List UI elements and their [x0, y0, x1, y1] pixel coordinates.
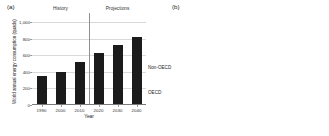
panel-a-history-projection-divider — [89, 13, 90, 105]
panel-a-x-tick-mark — [42, 105, 43, 107]
panel-a-x-tick-label: 2020 — [94, 108, 104, 113]
panel-a-x-axis-title: Year — [84, 114, 94, 119]
bar-2020 — [94, 53, 104, 105]
panel-a-x-tick-mark — [99, 105, 100, 107]
panel-a-x-tick-mark — [61, 105, 62, 107]
panel-a-y-tick-label: 600 — [23, 53, 30, 58]
panel-a-history-label: History — [53, 6, 68, 11]
panel-a-x-tick-mark — [118, 105, 119, 107]
panel-b: (b) Annual energy consumption (quads) 01… — [165, 0, 329, 136]
panel-a-projections-label: Projections — [106, 6, 130, 11]
panel-a-y-tick-mark — [30, 39, 32, 40]
panel-a-x-tick-label: 1990 — [37, 108, 47, 113]
panel-a-y-tick-mark — [30, 22, 32, 23]
panel-a-x-tick-mark — [137, 105, 138, 107]
panel-a-y-tick-label: 200 — [23, 86, 30, 91]
series-label-oecd: OECD — [148, 90, 161, 95]
panel-b-label: (b) — [172, 3, 180, 10]
bar-2040 — [132, 37, 142, 105]
panel-a: (a) World annual energy consumption (qua… — [0, 0, 164, 136]
panel-a-x-tick-label: 2010 — [75, 108, 85, 113]
figure-container: (a) World annual energy consumption (qua… — [0, 0, 329, 136]
panel-a-x-tick-label: 2040 — [132, 108, 142, 113]
panel-a-label: (a) — [7, 3, 15, 10]
panel-a-y-tick-label: 400 — [23, 69, 30, 74]
panel-a-x-tick-label: 2000 — [56, 108, 66, 113]
panel-a-x-tick-label: 2030 — [113, 108, 123, 113]
bar-2030 — [113, 45, 123, 105]
panel-a-y-axis-title: World annual energy consumption (quads) — [12, 19, 17, 104]
bar-2010 — [75, 62, 85, 105]
panel-a-y-tick-mark — [30, 72, 32, 73]
panel-a-y-tick-mark — [30, 88, 32, 89]
panel-a-plot-area: 02004006008001,0001990200020102020203020… — [32, 22, 146, 105]
panel-a-y-tick-mark — [30, 105, 32, 106]
bar-1990 — [37, 76, 47, 105]
panel-a-y-tick-mark — [30, 55, 32, 56]
bar-2000 — [56, 72, 66, 105]
panel-a-x-tick-mark — [80, 105, 81, 107]
panel-a-y-tick-label: 800 — [23, 36, 30, 41]
panel-a-y-tick-label: 1,000 — [19, 20, 30, 25]
panel-a-x-axis — [32, 104, 146, 105]
